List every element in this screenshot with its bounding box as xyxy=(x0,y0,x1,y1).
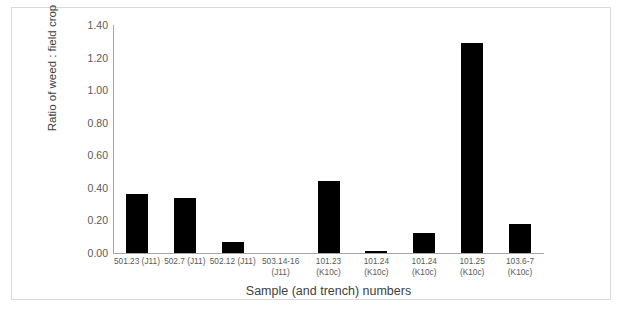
x-axis-title: Sample (and trench) numbers xyxy=(113,284,544,298)
y-axis-tick-label: 0.00 xyxy=(60,248,108,259)
x-axis-tick-label: 103.6-7 (K10c) xyxy=(496,256,544,278)
x-axis-line xyxy=(113,253,544,254)
x-axis-tick-label: 101.23 (K10c) xyxy=(305,256,353,278)
bar xyxy=(174,198,196,253)
y-axis-tick-label: 1.20 xyxy=(60,52,108,63)
y-axis-tick-label: 0.80 xyxy=(60,117,108,128)
bar xyxy=(318,181,340,253)
y-axis-title: Ratio of weed : field crop xyxy=(46,0,58,158)
bar xyxy=(365,251,387,253)
bar xyxy=(509,224,531,253)
x-axis-tick-label: 101.24 (K10c) xyxy=(400,256,448,278)
y-axis-tick-labels: 0.000.200.400.600.801.001.201.40 xyxy=(60,25,108,253)
x-axis-tick-label: 501.23 (J11) xyxy=(113,256,161,267)
bar-series xyxy=(113,25,544,253)
bar xyxy=(461,43,483,253)
y-axis-tick-label: 0.20 xyxy=(60,215,108,226)
x-axis-tick-label: 502.7 (J11) xyxy=(161,256,209,267)
chart-figure: Ratio of weed : field crop 0.000.200.400… xyxy=(0,0,622,312)
bar xyxy=(222,242,244,253)
x-axis-tick-label: 101.24 (K10c) xyxy=(352,256,400,278)
bar xyxy=(413,233,435,253)
y-axis-tick-label: 0.60 xyxy=(60,150,108,161)
y-axis-tick-label: 1.40 xyxy=(60,20,108,31)
x-axis-tick-label: 101.25 (K10c) xyxy=(448,256,496,278)
x-axis-tick-label: 502.12 (J11) xyxy=(209,256,257,267)
x-axis-tick-labels: 501.23 (J11)502.7 (J11)502.12 (J11)503.1… xyxy=(113,256,544,286)
y-axis-tick-label: 1.00 xyxy=(60,85,108,96)
y-axis-tick-label: 0.40 xyxy=(60,183,108,194)
bar xyxy=(126,194,148,253)
x-axis-tick-label: 503.14-16 (J11) xyxy=(257,256,305,278)
